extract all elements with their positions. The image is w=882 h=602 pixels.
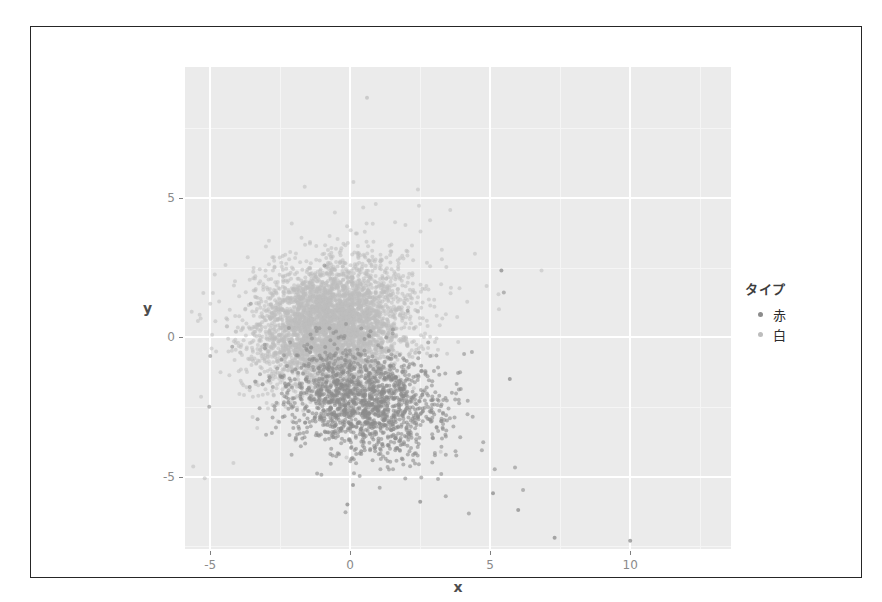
scatter-point bbox=[441, 398, 445, 402]
scatter-point bbox=[376, 436, 380, 440]
scatter-point bbox=[361, 385, 365, 389]
scatter-point bbox=[405, 394, 409, 398]
scatter-point bbox=[388, 260, 392, 264]
scatter-point bbox=[410, 273, 414, 277]
scatter-point bbox=[329, 254, 333, 258]
scatter-point bbox=[360, 298, 364, 302]
scatter-point bbox=[357, 406, 361, 410]
scatter-point bbox=[407, 326, 411, 330]
scatter-point bbox=[428, 218, 432, 222]
scatter-point bbox=[373, 405, 377, 409]
scatter-point bbox=[397, 400, 401, 404]
legend-key-white-icon bbox=[753, 327, 767, 341]
x-tick-mark bbox=[350, 551, 351, 555]
scatter-point bbox=[312, 277, 316, 281]
scatter-point bbox=[449, 286, 453, 290]
scatter-point bbox=[291, 348, 295, 352]
scatter-point bbox=[251, 395, 255, 399]
scatter-point bbox=[409, 314, 413, 318]
scatter-point bbox=[294, 363, 298, 367]
scatter-point bbox=[228, 308, 232, 312]
scatter-point bbox=[364, 264, 368, 268]
scatter-point bbox=[262, 370, 266, 374]
scatter-point bbox=[421, 406, 425, 410]
scatter-point bbox=[419, 283, 423, 287]
scatter-point bbox=[341, 351, 345, 355]
scatter-point bbox=[419, 411, 423, 415]
x-tick-mark bbox=[210, 551, 211, 555]
scatter-point bbox=[261, 382, 265, 386]
scatter-point bbox=[411, 420, 415, 424]
scatter-point bbox=[290, 413, 294, 417]
scatter-point bbox=[366, 359, 370, 363]
scatter-point bbox=[336, 427, 340, 431]
scatter-point bbox=[300, 268, 304, 272]
scatter-point bbox=[301, 281, 305, 285]
scatter-point bbox=[325, 271, 329, 275]
scatter-point bbox=[342, 396, 346, 400]
scatter-point bbox=[319, 473, 323, 477]
scatter-point bbox=[295, 408, 299, 412]
scatter-point bbox=[305, 404, 309, 408]
scatter-point bbox=[389, 338, 393, 342]
scatter-point bbox=[481, 440, 485, 444]
scatter-point bbox=[449, 291, 453, 295]
scatter-point bbox=[301, 372, 305, 376]
scatter-point bbox=[287, 257, 291, 261]
scatter-point bbox=[441, 426, 445, 430]
scatter-point bbox=[359, 449, 363, 453]
scatter-point bbox=[426, 324, 430, 328]
scatter-point bbox=[365, 222, 369, 226]
scatter-point bbox=[239, 343, 243, 347]
scatter-point bbox=[411, 258, 415, 262]
scatter-point bbox=[345, 383, 349, 387]
scatter-point bbox=[296, 301, 300, 305]
scatter-point bbox=[369, 312, 373, 316]
scatter-point bbox=[315, 390, 319, 394]
scatter-point bbox=[237, 294, 241, 298]
scatter-point bbox=[341, 286, 345, 290]
scatter-point bbox=[307, 272, 311, 276]
scatter-point bbox=[334, 423, 338, 427]
scatter-point bbox=[293, 272, 297, 276]
scatter-point bbox=[419, 229, 423, 233]
scatter-point bbox=[409, 301, 413, 305]
scatter-point bbox=[437, 373, 441, 377]
scatter-point bbox=[375, 401, 379, 405]
scatter-point bbox=[291, 426, 295, 430]
scatter-point bbox=[259, 306, 263, 310]
scatter-point bbox=[372, 367, 376, 371]
scatter-point bbox=[345, 224, 349, 228]
scatter-point bbox=[234, 341, 238, 345]
scatter-point bbox=[342, 401, 346, 405]
scatter-point bbox=[393, 272, 397, 276]
scatter-point bbox=[377, 440, 381, 444]
scatter-point bbox=[359, 304, 363, 308]
scatter-point bbox=[402, 383, 406, 387]
scatter-point bbox=[259, 335, 263, 339]
scatter-point bbox=[331, 272, 335, 276]
scatter-point bbox=[408, 382, 412, 386]
scatter-point bbox=[330, 399, 334, 403]
scatter-point bbox=[301, 307, 305, 311]
scatter-point bbox=[508, 377, 512, 381]
scatter-point bbox=[434, 354, 438, 358]
scatter-point bbox=[430, 384, 434, 388]
scatter-point bbox=[226, 350, 230, 354]
scatter-point bbox=[408, 411, 412, 415]
scatter-point bbox=[234, 348, 238, 352]
scatter-point bbox=[358, 315, 362, 319]
scatter-point bbox=[430, 419, 434, 423]
scatter-point bbox=[306, 311, 310, 315]
scatter-point bbox=[300, 437, 304, 441]
scatter-point bbox=[457, 387, 461, 391]
scatter-point bbox=[458, 435, 462, 439]
scatter-point bbox=[299, 444, 303, 448]
scatter-point bbox=[352, 334, 356, 338]
scatter-point bbox=[398, 418, 402, 422]
scatter-point bbox=[351, 409, 355, 413]
scatter-point bbox=[258, 323, 262, 327]
scatter-point bbox=[302, 336, 306, 340]
scatter-point bbox=[346, 285, 350, 289]
scatter-point bbox=[378, 253, 382, 257]
